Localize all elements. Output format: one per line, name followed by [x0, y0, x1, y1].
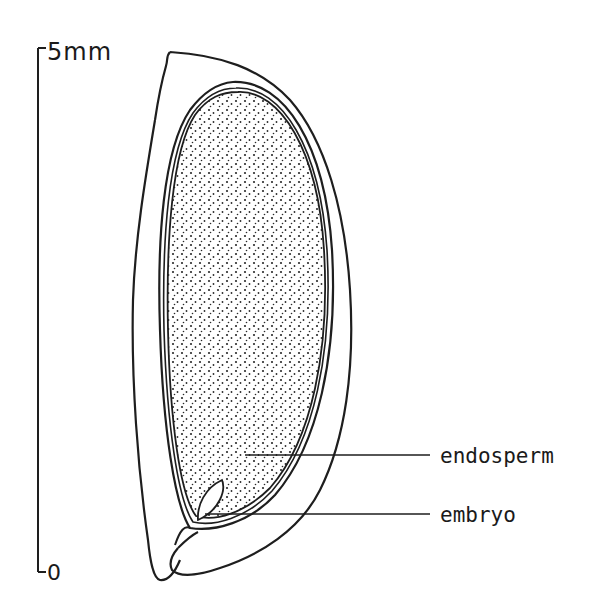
embryo-label: embryo [440, 505, 516, 526]
endosperm-region [160, 85, 335, 525]
scale-bottom-label: 0 [47, 562, 61, 584]
scale-bar [38, 48, 46, 572]
endosperm-label: endosperm [440, 446, 554, 467]
seed-diagram: 5mm 0 endosperm embryo [0, 0, 597, 607]
seed-base [175, 527, 198, 548]
scale-top-label: 5mm [47, 40, 112, 64]
